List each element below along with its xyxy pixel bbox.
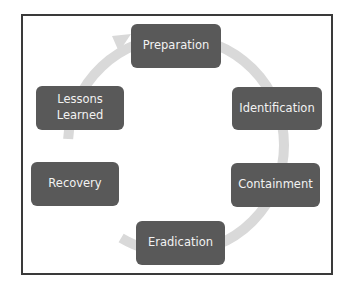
node-preparation: Preparation [131, 24, 221, 68]
node-eradication: Eradication [136, 221, 225, 265]
node-label: Identification [239, 101, 314, 117]
node-recovery: Recovery [31, 162, 119, 206]
node-label: Lessons Learned [57, 92, 104, 123]
node-containment: Containment [231, 163, 320, 207]
node-identification: Identification [232, 87, 322, 130]
node-label: Recovery [48, 176, 101, 192]
node-lessons-learned: Lessons Learned [36, 86, 124, 130]
node-label: Containment [238, 177, 312, 193]
node-label: Eradication [148, 235, 213, 251]
node-label: Preparation [143, 38, 209, 54]
